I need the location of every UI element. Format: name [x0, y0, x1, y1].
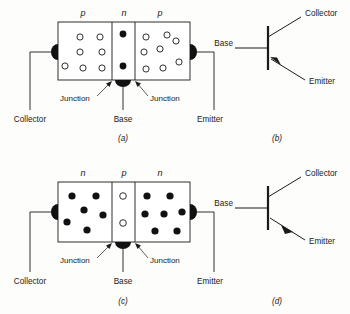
transistor-figure: p n p	[0, 0, 350, 314]
junction-label-left: Junction	[60, 94, 90, 103]
collector-lead	[268, 177, 301, 197]
base-contact	[115, 242, 131, 249]
collector-lead	[268, 17, 301, 37]
junction-label-left: Junction	[60, 256, 90, 265]
terminal-label-emitter: Emitter	[309, 237, 335, 246]
emitter-lead	[190, 212, 214, 272]
terminal-label-collector: Collector	[14, 277, 47, 286]
emitter-arrowhead	[270, 57, 281, 65]
panel-c-npn-structure: n p n	[0, 160, 215, 314]
semiconductor-bar	[58, 182, 190, 242]
region-label-collector-p: p	[79, 8, 85, 18]
panel-c-drawing: n p n	[0, 160, 215, 314]
base-contact	[115, 80, 131, 87]
panel-d-caption: (d)	[272, 297, 282, 306]
terminal-label-collector: Collector	[14, 115, 47, 124]
junction-label-right: Junction	[150, 94, 180, 103]
terminal-label-base: Base	[214, 199, 233, 208]
collector-lead	[30, 212, 58, 272]
emitter-arrowhead	[281, 225, 293, 234]
panel-a-drawing: p n p	[0, 0, 215, 150]
junction-label-right: Junction	[150, 256, 180, 265]
panel-d-drawing: Base Collector Emitter (d)	[215, 160, 350, 314]
terminal-label-collector: Collector	[305, 9, 338, 18]
panel-b-caption: (b)	[272, 134, 282, 143]
region-label-collector-n: n	[80, 168, 85, 178]
region-label-emitter-p: p	[156, 8, 162, 18]
emitter-lead	[271, 59, 305, 80]
junction-arrowhead-right	[135, 243, 141, 249]
junction-arrowhead-right	[135, 81, 141, 87]
terminal-label-emitter: Emitter	[309, 77, 335, 86]
panel-a-pnp-structure: p n p	[0, 0, 215, 150]
terminal-label-base: Base	[114, 115, 133, 124]
emitter-lead	[190, 52, 214, 110]
terminal-label-collector: Collector	[305, 169, 338, 178]
panel-c-caption: (c)	[118, 297, 128, 306]
region-label-base-n: n	[121, 8, 126, 18]
region-label-base-p: p	[120, 168, 126, 178]
panel-d-npn-symbol: Base Collector Emitter (d)	[215, 160, 350, 314]
terminal-label-base: Base	[214, 39, 233, 48]
panel-b-pnp-symbol: Base Collector Emitter (b)	[215, 0, 350, 150]
panel-b-drawing: Base Collector Emitter (b)	[215, 0, 350, 150]
panel-a-caption: (a)	[118, 134, 128, 143]
region-label-emitter-n: n	[157, 168, 162, 178]
collector-lead	[30, 52, 58, 110]
terminal-label-base: Base	[114, 277, 133, 286]
